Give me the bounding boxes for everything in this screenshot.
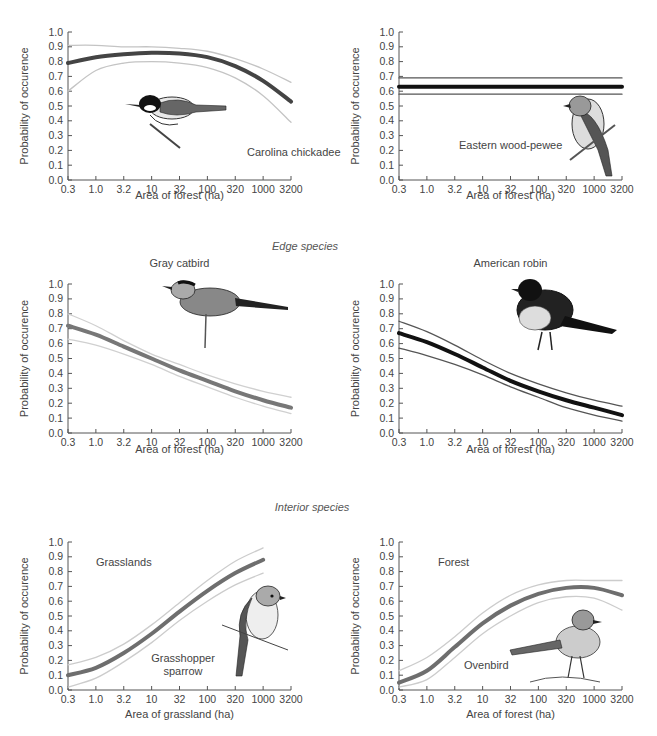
x-tick-label: 320 <box>226 183 244 195</box>
confidence-line <box>68 314 291 397</box>
y-tick-label: 0.2 <box>48 144 63 156</box>
chart-american-robin: 0.00.10.20.30.40.50.60.70.80.91.00.31.03… <box>349 257 634 455</box>
x-tick-label: 1000 <box>582 436 606 448</box>
x-tick-label: 0.3 <box>61 436 76 448</box>
x-tick-label: 1.0 <box>89 436 104 448</box>
x-tick-label: 320 <box>557 436 575 448</box>
x-tick-label: 0.3 <box>61 693 76 705</box>
y-tick-label: 1.0 <box>379 26 394 38</box>
y-axis-title: Probability of occurence <box>349 300 361 417</box>
gray-catbird-illustration-icon <box>162 281 288 348</box>
x-tick-label: 0.3 <box>61 183 76 195</box>
x-tick-label: 1.0 <box>89 183 104 195</box>
confidence-line <box>399 348 622 421</box>
y-tick-label: 0.5 <box>48 100 63 112</box>
y-tick-label: 0.4 <box>379 367 394 379</box>
x-tick-label: 0.3 <box>392 436 407 448</box>
y-tick-label: 0.2 <box>379 654 394 666</box>
y-tick-label: 0.7 <box>48 322 63 334</box>
x-tick-label: 3.2 <box>116 693 131 705</box>
figure-canvas: Edge species Interior species 0.00.10.20… <box>0 0 657 736</box>
grasshopper-sparrow-illustration-icon <box>222 586 288 676</box>
x-tick-label: 1.0 <box>420 436 435 448</box>
confidence-line <box>399 321 622 406</box>
y-tick-label: 0.1 <box>379 412 394 424</box>
x-tick-label: 3200 <box>610 183 634 195</box>
y-tick-label: 0.3 <box>48 382 63 394</box>
y-tick-label: 0.6 <box>48 85 63 97</box>
confidence-line <box>68 339 291 414</box>
y-tick-label: 0.7 <box>379 322 394 334</box>
y-tick-label: 0.8 <box>48 307 63 319</box>
x-axis-title: Area of grassland (ha) <box>125 708 234 720</box>
y-tick-label: 0.3 <box>48 129 63 141</box>
x-tick-label: 3200 <box>279 693 303 705</box>
y-tick-label: 0.9 <box>48 292 63 304</box>
y-tick-label: 0.4 <box>379 114 394 126</box>
y-tick-label: 0.1 <box>379 159 394 171</box>
y-tick-label: 0.7 <box>379 580 394 592</box>
y-tick-label: 0.9 <box>48 550 63 562</box>
x-tick-label: 3.2 <box>447 693 462 705</box>
y-tick-label: 0.1 <box>48 669 63 681</box>
x-tick-label: 1000 <box>582 183 606 195</box>
x-tick-label: 10 <box>477 693 489 705</box>
y-tick-label: 0.6 <box>379 595 394 607</box>
y-tick-label: 0.2 <box>379 144 394 156</box>
ovenbird-illustration-icon <box>510 610 602 682</box>
x-tick-label: 3.2 <box>447 183 462 195</box>
y-tick-label: 0.6 <box>48 337 63 349</box>
x-tick-label: 0.3 <box>392 693 407 705</box>
species-label: Eastern wood-pewee <box>459 139 562 151</box>
x-tick-label: 3.2 <box>116 436 131 448</box>
x-tick-label: 3.2 <box>447 436 462 448</box>
y-tick-label: 0.8 <box>379 55 394 67</box>
y-tick-label: 0.9 <box>379 292 394 304</box>
y-tick-label: 0.6 <box>379 85 394 97</box>
x-axis-title: Area of forest (ha) <box>466 443 555 455</box>
x-tick-label: 100 <box>530 693 548 705</box>
y-tick-label: 0.3 <box>48 639 63 651</box>
y-tick-label: 0.6 <box>379 337 394 349</box>
y-tick-label: 0.3 <box>379 129 394 141</box>
y-tick-label: 0.5 <box>379 352 394 364</box>
section-label-edge: Edge species <box>272 240 339 252</box>
species-label: Carolina chickadee <box>247 146 341 158</box>
y-tick-label: 0.8 <box>48 55 63 67</box>
y-tick-label: 1.0 <box>48 536 63 548</box>
y-tick-label: 1.0 <box>48 278 63 290</box>
x-tick-label: 32 <box>174 693 186 705</box>
x-tick-label: 100 <box>199 693 217 705</box>
y-tick-label: 0.7 <box>379 70 394 82</box>
y-tick-label: 0.9 <box>48 40 63 52</box>
species-label: sparrow <box>163 665 202 677</box>
chart-gray-catbird: 0.00.10.20.30.40.50.60.70.80.91.00.31.03… <box>18 257 303 455</box>
section-label-interior: Interior species <box>275 501 350 513</box>
y-tick-label: 0.9 <box>379 40 394 52</box>
chart-title: American robin <box>474 257 548 269</box>
y-tick-label: 0.2 <box>48 397 63 409</box>
x-axis-title: Area of forest (ha) <box>135 189 224 201</box>
y-tick-label: 0.5 <box>379 610 394 622</box>
x-tick-label: 320 <box>557 693 575 705</box>
y-tick-label: 0.4 <box>48 367 63 379</box>
y-tick-label: 1.0 <box>379 278 394 290</box>
y-tick-label: 0.5 <box>379 100 394 112</box>
x-tick-label: 10 <box>146 693 158 705</box>
y-axis-title: Probability of occurence <box>18 300 30 417</box>
x-axis-title: Area of forest (ha) <box>466 189 555 201</box>
y-tick-label: 0.6 <box>48 595 63 607</box>
y-tick-label: 0.5 <box>48 352 63 364</box>
y-axis-title: Probability of occurence <box>18 47 30 164</box>
x-tick-label: 3.2 <box>116 183 131 195</box>
y-tick-label: 0.4 <box>379 624 394 636</box>
chart-title: Gray catbird <box>150 257 210 269</box>
x-axis-title: Area of forest (ha) <box>135 443 224 455</box>
y-tick-label: 0.5 <box>48 610 63 622</box>
american-robin-illustration-icon <box>511 279 617 350</box>
x-tick-label: 3200 <box>610 693 634 705</box>
x-tick-label: 1000 <box>251 183 275 195</box>
y-tick-label: 0.8 <box>379 565 394 577</box>
x-axis-title: Area of forest (ha) <box>466 708 555 720</box>
y-tick-label: 0.4 <box>48 114 63 126</box>
